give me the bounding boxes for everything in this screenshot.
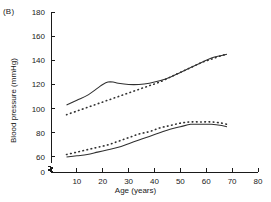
axis-lines — [48, 12, 258, 172]
panel-label: (B) — [3, 7, 14, 16]
svg-text:20: 20 — [98, 177, 107, 186]
x-axis-title: Age (years) — [0, 186, 271, 195]
svg-text:0: 0 — [41, 168, 46, 177]
svg-text:120: 120 — [32, 80, 46, 89]
svg-text:100: 100 — [32, 105, 46, 114]
plot-canvas: 06080100120140160180 1020304050607080 — [0, 0, 271, 202]
series-curve — [67, 54, 227, 114]
y-axis-title: Blood pressure (mmHg) — [9, 36, 18, 166]
x-axis-ticks: 1020304050607080 — [72, 168, 263, 186]
svg-text:50: 50 — [176, 177, 185, 186]
series-curve — [67, 124, 227, 157]
data-series — [67, 54, 227, 157]
svg-text:80: 80 — [36, 129, 45, 138]
svg-text:70: 70 — [228, 177, 237, 186]
svg-text:60: 60 — [202, 177, 211, 186]
svg-text:30: 30 — [124, 177, 133, 186]
svg-text:160: 160 — [32, 32, 46, 41]
svg-text:180: 180 — [32, 8, 46, 17]
svg-text:40: 40 — [150, 177, 159, 186]
svg-text:60: 60 — [36, 153, 45, 162]
svg-text:80: 80 — [254, 177, 263, 186]
series-curve — [67, 122, 227, 155]
svg-text:140: 140 — [32, 56, 46, 65]
blood-pressure-age-chart: (B) Blood pressure (mmHg) Age (years) 06… — [0, 0, 271, 202]
svg-text:10: 10 — [72, 177, 81, 186]
